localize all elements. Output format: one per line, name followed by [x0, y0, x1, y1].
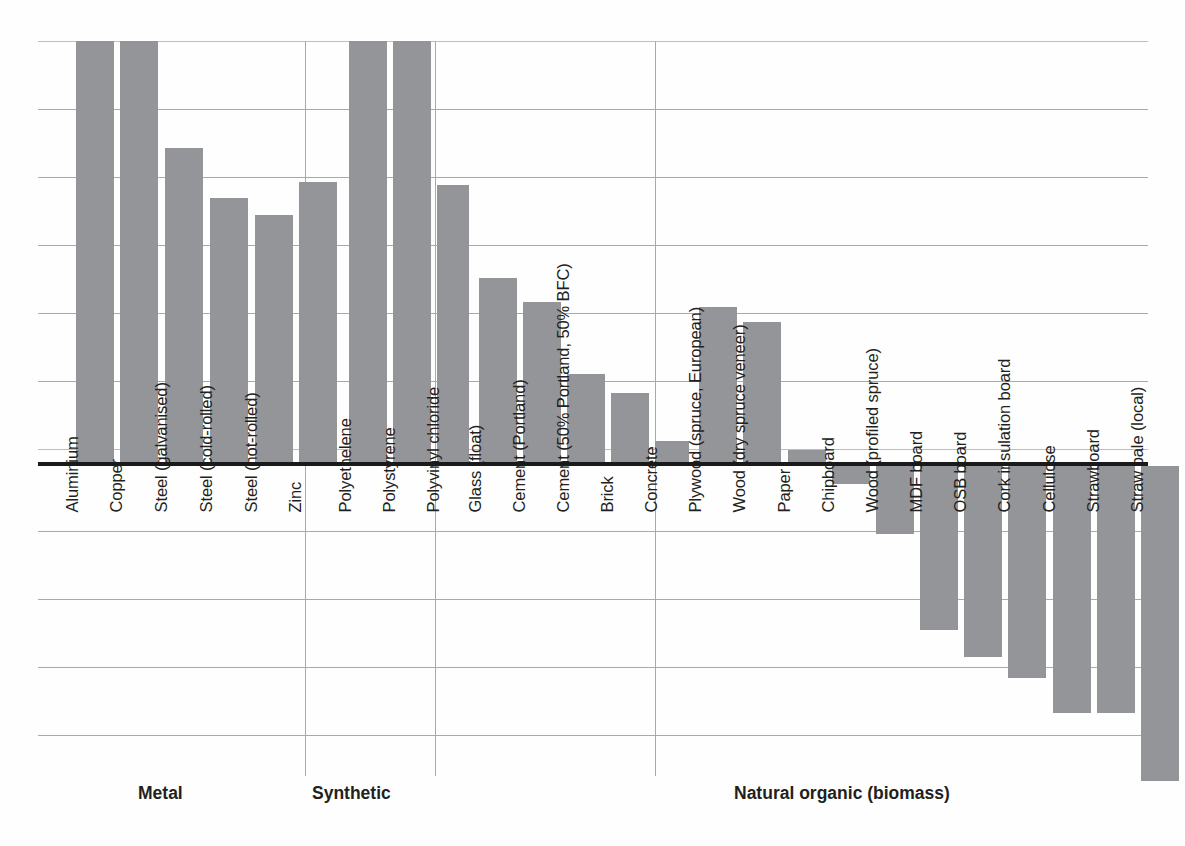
- bar: [393, 41, 431, 462]
- bar: [479, 278, 517, 462]
- plot-area: AluminiumCopperSteel (galvanised)Steel (…: [38, 41, 1148, 776]
- bar: [788, 450, 826, 462]
- bar: [255, 215, 293, 462]
- gridline: [38, 109, 1148, 110]
- bar: [567, 374, 605, 462]
- bar: [120, 41, 158, 462]
- bar-label: Paper: [776, 469, 793, 513]
- bar: [699, 307, 737, 462]
- bar: [165, 148, 203, 462]
- gridline: [38, 313, 1148, 314]
- bar: [1008, 466, 1046, 678]
- zero-axis-line: [38, 462, 1148, 466]
- gridline: [38, 667, 1148, 668]
- gridline: [38, 735, 1148, 736]
- bar: [920, 466, 958, 630]
- bar-label: Brick: [599, 476, 616, 512]
- group-separator: [435, 41, 436, 776]
- gridline: [38, 177, 1148, 178]
- bar: [437, 185, 469, 462]
- group-caption: Metal: [138, 783, 183, 804]
- bar: [1097, 466, 1135, 713]
- gridline: [38, 245, 1148, 246]
- gridline: [38, 41, 1148, 42]
- bar-label: Zinc: [287, 482, 304, 513]
- bar: [876, 466, 914, 534]
- bar: [76, 41, 114, 462]
- bar: [349, 41, 387, 462]
- bar: [832, 466, 870, 484]
- bar: [523, 302, 561, 462]
- bar: [964, 466, 1002, 657]
- bar: [743, 322, 781, 462]
- group-caption: Natural organic (biomass): [734, 783, 950, 804]
- group-caption: Synthetic: [312, 783, 391, 804]
- bar: [1053, 466, 1091, 713]
- bar-label: Copper: [108, 459, 125, 513]
- chart-canvas: AluminiumCopperSteel (galvanised)Steel (…: [0, 0, 1185, 846]
- bar: [210, 198, 248, 462]
- bar: [611, 393, 649, 462]
- group-separator: [655, 41, 656, 776]
- bar: [299, 182, 337, 462]
- bar: [1141, 466, 1179, 781]
- bar: [655, 441, 689, 462]
